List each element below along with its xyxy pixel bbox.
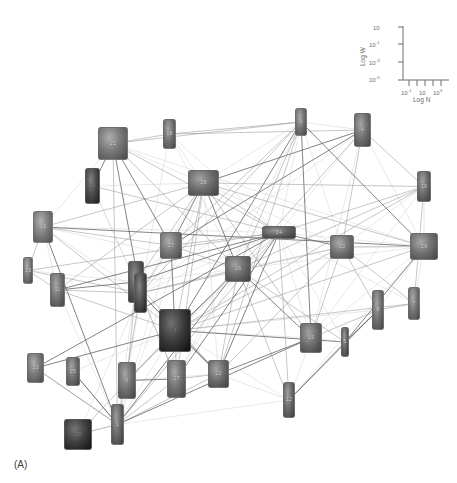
network-edge	[170, 130, 363, 134]
network-node-16[interactable]: 16	[33, 211, 53, 243]
network-node-label: 7	[412, 301, 415, 307]
network-node-5[interactable]: 5	[341, 327, 349, 357]
network-edge	[311, 130, 363, 338]
network-edge	[136, 269, 238, 282]
network-node-1[interactable]: 1	[111, 404, 124, 445]
network-edge	[58, 282, 137, 290]
network-node-label: 16	[40, 224, 47, 230]
network-node-26[interactable]: 26	[225, 256, 251, 282]
x-tick-label-2: 103	[433, 88, 442, 96]
network-edge	[238, 269, 345, 342]
log-log-inset-axes: 10 10-1 10-3 10-5 10-1 10 103 Log W Log …	[345, 14, 453, 106]
network-node-label: 8	[376, 307, 379, 313]
network-edge	[43, 183, 204, 227]
network-node-label: 4	[361, 127, 364, 133]
network-edge	[219, 338, 312, 374]
panel-caption: (A)	[14, 459, 27, 470]
network-node-17[interactable]: 17	[167, 360, 186, 398]
network-node-label: 30	[75, 432, 82, 438]
network-node-label: 13	[25, 268, 32, 274]
network-node-label: 20	[339, 244, 346, 250]
network-edge	[36, 331, 176, 369]
y-tick-label-2: 10-3	[369, 58, 380, 66]
network-node-29[interactable]: 29	[410, 233, 438, 260]
network-node-label: 27	[168, 243, 175, 249]
network-node-8[interactable]: 8	[372, 290, 384, 330]
network-node-label: 6	[125, 378, 128, 384]
network-node-label: 11	[54, 287, 60, 293]
y-axis-title: Log W	[359, 47, 366, 66]
x-axis-title: Log N	[413, 96, 430, 103]
network-node-4[interactable]: 4	[354, 113, 371, 147]
network-node-3[interactable]: 3	[159, 309, 191, 352]
network-node-label: 5	[343, 339, 346, 345]
network-node-label: 9	[299, 119, 302, 125]
network-node-18[interactable]: 18	[163, 119, 176, 149]
network-edge	[177, 122, 302, 379]
network-node-21[interactable]: 21	[98, 127, 128, 160]
network-node-label: 1	[116, 422, 119, 428]
network-edge	[93, 186, 280, 233]
network-node-label: 29	[421, 244, 428, 250]
network-node-7[interactable]: 7	[408, 287, 420, 320]
x-tick-label-0: 10-1	[401, 88, 412, 96]
network-node-6[interactable]: 6	[118, 362, 136, 399]
network-node-12[interactable]: 12	[283, 382, 295, 418]
network-edge	[219, 233, 280, 375]
network-node-label: 28	[200, 180, 207, 186]
network-node-label: 17	[173, 376, 180, 382]
network-edge	[219, 374, 290, 400]
network-node-label: 3	[173, 328, 176, 334]
network-node-20[interactable]: 20	[330, 235, 354, 259]
y-tick-label-3: 10-5	[369, 75, 380, 83]
network-node-9[interactable]: 9	[295, 108, 307, 136]
network-node-label: 19	[89, 183, 96, 189]
network-edge	[93, 183, 204, 186]
network-node-28[interactable]: 28	[188, 170, 219, 196]
network-node-label: 22	[215, 371, 222, 377]
network-figure-panel: 2119161828941027242029261114137231558232…	[0, 0, 457, 483]
network-node-label: 15	[308, 335, 315, 341]
network-edge	[204, 183, 219, 374]
network-edge	[363, 130, 425, 187]
network-edge	[175, 331, 289, 401]
network-node-27[interactable]: 27	[160, 232, 182, 259]
network-edge	[342, 130, 363, 247]
network-node-label: 24	[276, 230, 283, 236]
network-node-25[interactable]: 25	[66, 357, 80, 386]
network-node-label: 10	[421, 184, 428, 190]
network-node-10[interactable]: 10	[417, 171, 431, 202]
network-node-15[interactable]: 15	[300, 323, 322, 353]
network-node-label: 25	[70, 369, 77, 375]
network-node-label: 23	[32, 365, 39, 371]
network-edge	[170, 122, 302, 134]
network-node-22[interactable]: 22	[208, 360, 229, 388]
y-tick-label-0: 10	[373, 23, 380, 31]
network-node-label: 26	[235, 266, 242, 272]
network-node-11[interactable]: 11	[50, 273, 65, 307]
network-node-19[interactable]: 19	[85, 168, 100, 204]
network-edge	[43, 227, 118, 425]
network-node-2[interactable]: 2	[134, 273, 147, 313]
network-node-label: 2	[139, 290, 142, 296]
network-edge	[204, 183, 312, 338]
network-edge	[136, 233, 279, 283]
network-node-label: 18	[166, 131, 173, 137]
network-edge	[113, 122, 301, 144]
network-edge	[118, 400, 290, 425]
network-edge	[177, 233, 280, 380]
network-node-13[interactable]: 13	[23, 257, 33, 284]
network-edge	[279, 122, 301, 233]
network-node-30[interactable]: 30	[64, 419, 92, 450]
network-node-23[interactable]: 23	[27, 353, 44, 383]
network-node-label: 12	[286, 397, 293, 403]
network-node-label: 21	[110, 141, 117, 147]
y-tick-label-1: 10-1	[369, 40, 380, 48]
x-tick-label-1: 10	[419, 88, 426, 96]
network-edge	[301, 122, 311, 338]
network-node-24[interactable]: 24	[262, 226, 296, 239]
network-edge	[175, 187, 424, 331]
